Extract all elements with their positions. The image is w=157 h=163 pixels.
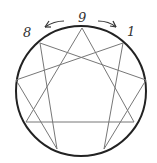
arrow-counterclockwise-icon [45,21,64,27]
arrow-clockwise-icon [98,21,116,27]
label-8: 8 [23,25,31,40]
label-1: 1 [127,24,135,39]
label-9: 9 [78,10,86,25]
inner-triangle [26,28,134,122]
enneagram-circle [16,26,146,156]
inner-hexad [16,43,146,149]
enneagram-diagram: 9 8 1 [0,0,157,163]
